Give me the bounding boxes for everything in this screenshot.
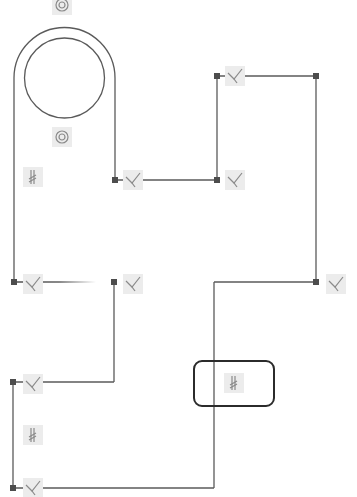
perpendicular-icon[interactable] (225, 66, 245, 86)
endpoint-handle[interactable] (313, 279, 319, 285)
endpoint-handle[interactable] (11, 279, 17, 285)
constraint-glyphs (23, 0, 346, 497)
parallel-icon[interactable] (23, 425, 43, 445)
endpoint-handle[interactable] (112, 177, 118, 183)
sketch-canvas[interactable] (0, 0, 357, 497)
perpendicular-icon[interactable] (123, 170, 143, 190)
inner-circle[interactable] (25, 38, 105, 118)
outer-arc[interactable] (14, 28, 115, 78)
endpoint-handle[interactable] (214, 177, 220, 183)
endpoint-handle[interactable] (10, 485, 16, 491)
perpendicular-icon[interactable] (123, 274, 143, 294)
concentric-icon[interactable] (52, 0, 72, 15)
sketch-geometry (13, 28, 316, 488)
perpendicular-icon[interactable] (23, 274, 43, 294)
perpendicular-icon[interactable] (23, 374, 43, 394)
endpoint-handle[interactable] (214, 73, 220, 79)
perpendicular-icon[interactable] (23, 478, 43, 497)
parallel-icon[interactable] (23, 167, 43, 187)
perpendicular-icon[interactable] (326, 274, 346, 294)
endpoint-handle[interactable] (111, 279, 117, 285)
parallel-icon[interactable] (224, 373, 244, 393)
endpoint-handle[interactable] (10, 379, 16, 385)
endpoint-handle[interactable] (313, 73, 319, 79)
perpendicular-icon[interactable] (225, 170, 245, 190)
concentric-icon[interactable] (52, 127, 72, 147)
